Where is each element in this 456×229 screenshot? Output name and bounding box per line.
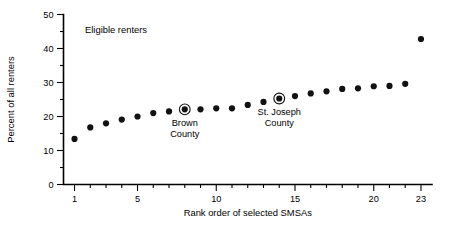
plot-axes xyxy=(64,15,433,185)
x-axis-tick-label: 23 xyxy=(416,194,426,204)
data-point xyxy=(182,106,188,112)
chart-figure: 010203040501510152023Rank order of selec… xyxy=(0,0,456,229)
data-point xyxy=(418,36,424,42)
y-axis-tick-label: 0 xyxy=(48,180,53,190)
data-point xyxy=(166,108,172,114)
data-point xyxy=(276,95,282,101)
annotation-label-line1: Brown xyxy=(172,118,198,128)
annotation-label-line2: County xyxy=(170,129,200,139)
data-point xyxy=(308,90,314,96)
annotation-label-line1: St. Joseph xyxy=(258,107,301,117)
data-point xyxy=(119,116,125,122)
x-axis-tick-label: 15 xyxy=(290,194,300,204)
data-point xyxy=(260,99,266,105)
y-axis-title: Percent of all renters xyxy=(5,56,16,143)
data-point xyxy=(134,113,140,119)
data-point xyxy=(197,106,203,112)
scatter-plot: 010203040501510152023Rank order of selec… xyxy=(0,0,456,229)
x-axis-tick-label: 5 xyxy=(135,194,140,204)
data-point xyxy=(213,105,219,111)
x-axis-tick-label: 20 xyxy=(369,194,379,204)
data-point xyxy=(71,136,77,142)
data-point xyxy=(355,85,361,91)
series-label: Eligible renters xyxy=(85,24,147,35)
data-point xyxy=(386,83,392,89)
data-point xyxy=(323,88,329,94)
annotation-label-line2: County xyxy=(265,118,295,128)
data-point xyxy=(150,110,156,116)
data-point xyxy=(245,102,251,108)
data-point xyxy=(402,81,408,87)
data-point xyxy=(339,86,345,92)
x-axis-title: Rank order of selected SMSAs xyxy=(184,207,312,218)
y-axis-tick-label: 50 xyxy=(43,10,53,20)
data-point xyxy=(87,124,93,130)
data-point xyxy=(292,93,298,99)
x-axis-tick-label: 1 xyxy=(72,194,77,204)
data-point xyxy=(371,83,377,89)
x-axis-tick-label: 10 xyxy=(211,194,221,204)
y-axis-tick-label: 30 xyxy=(43,78,53,88)
y-axis-tick-label: 40 xyxy=(43,44,53,54)
data-point xyxy=(103,120,109,126)
data-point xyxy=(229,105,235,111)
y-axis-tick-label: 10 xyxy=(43,146,53,156)
y-axis-tick-label: 20 xyxy=(43,112,53,122)
